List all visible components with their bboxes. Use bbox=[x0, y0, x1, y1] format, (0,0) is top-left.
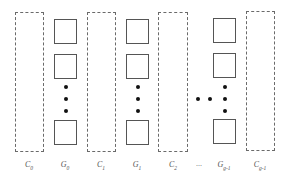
label-gg1: Gg-1 bbox=[217, 160, 230, 171]
ellipsis-dot-2 bbox=[208, 97, 212, 101]
g0-dot-3 bbox=[64, 109, 68, 113]
label-c1: C1 bbox=[97, 160, 105, 171]
gg1-dot-1 bbox=[223, 85, 227, 89]
g0-dot-1 bbox=[64, 85, 68, 89]
ellipsis-dot-1 bbox=[196, 97, 200, 101]
gg1-dot-3 bbox=[223, 109, 227, 113]
gg1-box-1 bbox=[213, 18, 236, 43]
g1-dot-3 bbox=[136, 109, 140, 113]
label-g0: G0 bbox=[61, 160, 70, 171]
label-c2: C2 bbox=[169, 160, 177, 171]
label-c0: C0 bbox=[25, 160, 33, 171]
gg1-box-3 bbox=[213, 119, 236, 144]
c1-dashed-container bbox=[87, 12, 116, 152]
label-ellipsis: ... bbox=[196, 159, 202, 168]
cg1-dashed-container bbox=[246, 11, 275, 151]
gg1-dot-2 bbox=[223, 97, 227, 101]
c0-dashed-container bbox=[15, 12, 44, 152]
g1-box-3 bbox=[126, 120, 149, 145]
g0-dot-2 bbox=[64, 97, 68, 101]
g1-box-1 bbox=[126, 19, 149, 44]
g1-box-2 bbox=[126, 54, 149, 79]
label-g1: G1 bbox=[133, 160, 142, 171]
g0-box-3 bbox=[54, 120, 77, 145]
g1-dot-1 bbox=[136, 85, 140, 89]
g1-dot-2 bbox=[136, 97, 140, 101]
c2-dashed-container bbox=[158, 12, 188, 152]
label-cg1: Cg-1 bbox=[254, 160, 267, 171]
g0-box-1 bbox=[54, 19, 77, 44]
gg1-box-2 bbox=[213, 53, 236, 78]
g0-box-2 bbox=[54, 54, 77, 79]
